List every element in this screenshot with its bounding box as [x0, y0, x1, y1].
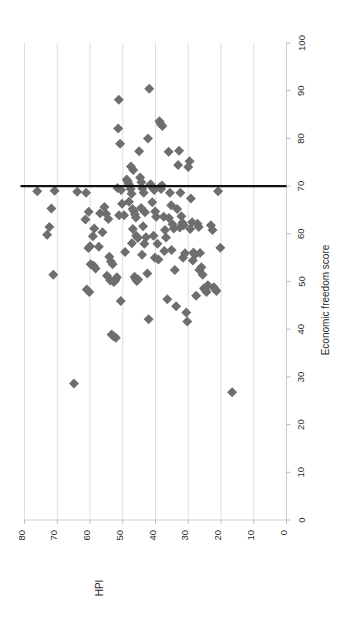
data-point	[88, 231, 98, 241]
y-tick-label-30: 30	[296, 372, 307, 383]
y-tick-label-90: 90	[296, 85, 307, 96]
data-point	[160, 225, 170, 235]
data-point	[50, 186, 60, 196]
data-point	[120, 247, 130, 257]
data-point	[174, 146, 184, 156]
data-point	[115, 139, 125, 149]
data-point	[164, 147, 174, 157]
data-point	[42, 230, 52, 240]
gridlines-group	[25, 43, 287, 520]
y-tick-label-70: 70	[296, 181, 307, 192]
data-point	[152, 239, 162, 249]
data-point	[171, 301, 181, 311]
data-point	[162, 294, 172, 304]
data-point	[46, 204, 56, 214]
y-tick-label-80: 80	[296, 133, 307, 144]
x-axis-title: HPI	[94, 580, 105, 597]
data-point	[215, 243, 225, 253]
data-point	[81, 188, 91, 198]
x-axis-tick-labels: 80706050403020100	[16, 530, 289, 541]
y-tick-label-0: 0	[296, 517, 307, 522]
x-tick-label-40: 40	[147, 530, 158, 541]
data-point	[165, 188, 175, 198]
x-tick-label-50: 50	[114, 530, 125, 541]
data-point	[138, 221, 148, 231]
data-point	[69, 379, 79, 389]
data-point	[144, 314, 154, 324]
tickmarks-group	[25, 43, 291, 524]
data-point	[139, 239, 149, 249]
y-tick-label-60: 60	[296, 229, 307, 240]
y-tick-label-40: 40	[296, 324, 307, 335]
data-point	[113, 123, 123, 133]
data-point	[144, 84, 154, 94]
x-tick-label-70: 70	[48, 530, 59, 541]
y-tick-label-50: 50	[296, 276, 307, 287]
data-point	[175, 188, 185, 198]
scatter-plot: 80706050403020100 0102030405060708090100…	[0, 0, 338, 619]
data-point	[186, 194, 196, 204]
y-axis-tick-labels: 0102030405060708090100	[296, 35, 307, 523]
y-tick-label-20: 20	[296, 419, 307, 430]
data-point	[97, 227, 107, 237]
y-tick-label-100: 100	[296, 35, 307, 51]
data-point	[227, 387, 237, 397]
x-tick-label-60: 60	[81, 530, 92, 541]
data-point	[173, 160, 183, 170]
data-point	[134, 146, 144, 156]
x-tick-label-20: 20	[212, 530, 223, 541]
data-point	[143, 133, 153, 143]
data-point	[137, 250, 147, 260]
data-point	[170, 265, 180, 275]
data-point	[116, 296, 126, 306]
data-point	[72, 187, 82, 197]
data-point	[32, 186, 42, 196]
data-point	[142, 268, 152, 278]
data-point	[94, 242, 104, 252]
data-point	[213, 186, 223, 196]
data-point	[89, 224, 99, 234]
data-point	[181, 308, 191, 318]
data-point	[167, 245, 177, 255]
data-point	[191, 291, 201, 301]
y-tick-label-10: 10	[296, 467, 307, 478]
y-axis-title: Economic freedom score	[320, 244, 331, 355]
data-point	[48, 270, 58, 280]
data-point	[114, 95, 124, 105]
data-point	[182, 317, 192, 327]
chart-container: 80706050403020100 0102030405060708090100…	[0, 0, 338, 619]
data-point	[161, 233, 171, 243]
data-point	[44, 222, 54, 232]
x-tick-label-10: 10	[245, 530, 256, 541]
data-point	[149, 231, 159, 241]
data-points-group	[32, 84, 237, 397]
x-tick-label-0: 0	[278, 530, 289, 535]
x-tick-label-80: 80	[16, 530, 27, 541]
x-tick-label-30: 30	[179, 530, 190, 541]
